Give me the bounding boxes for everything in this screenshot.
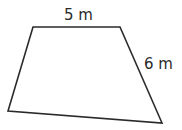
right-side-label: 6 m [144,55,173,73]
quadrilateral-shape [8,27,162,123]
quadrilateral-diagram: 5 m 6 m [0,0,182,130]
top-side-label: 5 m [64,6,93,24]
